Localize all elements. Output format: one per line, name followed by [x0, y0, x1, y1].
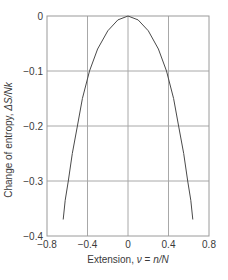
y-tick-label: −0.3	[23, 176, 43, 187]
x-tick-label: −0.4	[78, 239, 98, 250]
y-axis-label: Change of entropy, ΔS/Nk	[3, 81, 14, 197]
grid-lines	[47, 16, 209, 236]
x-axis-label: Extension, ν = n/N	[87, 254, 169, 265]
y-tick-label: 0	[37, 11, 43, 22]
entropy-chart: −0.8−0.400.40.8 0−0.1−0.2−0.3−0.4 Extens…	[0, 0, 228, 280]
x-tick-label: 0.4	[162, 239, 176, 250]
x-tick-label: 0	[125, 239, 131, 250]
x-tick-labels: −0.8−0.400.40.8	[37, 239, 216, 250]
x-tick-label: 0.8	[202, 239, 216, 250]
y-tick-labels: 0−0.1−0.2−0.3−0.4	[23, 11, 43, 242]
y-tick-label: −0.2	[23, 121, 43, 132]
y-tick-label: −0.1	[23, 66, 43, 77]
y-tick-label: −0.4	[23, 231, 43, 242]
